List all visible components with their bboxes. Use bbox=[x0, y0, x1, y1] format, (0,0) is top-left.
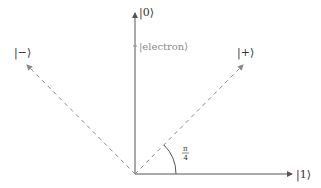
minus-label: |−⟩ bbox=[14, 46, 31, 60]
zero-label: |0⟩ bbox=[139, 6, 154, 20]
qubit-diagram: |0⟩ |1⟩ |+⟩ |−⟩ |electron⟩ π 4 bbox=[0, 0, 321, 188]
angle-numerator: π bbox=[183, 145, 188, 153]
minus-vector bbox=[27, 65, 135, 174]
electron-label: |electron⟩ bbox=[139, 41, 188, 53]
angle-denominator: 4 bbox=[184, 154, 189, 162]
one-label: |1⟩ bbox=[296, 168, 311, 182]
plus-label: |+⟩ bbox=[237, 46, 254, 60]
angle-arc bbox=[164, 145, 176, 174]
angle-label: π 4 bbox=[182, 145, 189, 162]
plus-vector bbox=[135, 65, 243, 174]
